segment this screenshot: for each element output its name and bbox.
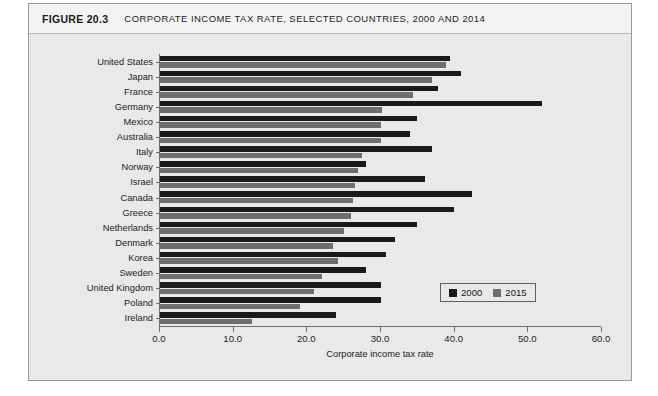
bar-2000 — [160, 297, 381, 303]
legend-swatch-2015 — [493, 289, 501, 297]
category-label: Italy — [136, 147, 153, 157]
bar-2015 — [160, 319, 252, 325]
x-tick-label: 20.0 — [297, 333, 316, 344]
bar-2000 — [160, 312, 336, 318]
bar-2015 — [160, 183, 355, 189]
category-label: Ireland — [125, 313, 153, 323]
bar-2015 — [160, 77, 432, 83]
bar-2000 — [160, 191, 472, 197]
bar-2015 — [160, 228, 344, 234]
x-tick-label: 40.0 — [444, 333, 463, 344]
category-label: Australia — [117, 132, 153, 142]
bar-row: Germany — [160, 99, 601, 114]
bar-2000 — [160, 116, 417, 122]
category-label: Israel — [130, 177, 153, 187]
bar-2015 — [160, 289, 314, 295]
bar-2015 — [160, 62, 446, 68]
figure-number: FIGURE 20.3 — [42, 13, 108, 25]
category-label: Poland — [124, 298, 153, 308]
bar-2015 — [160, 304, 300, 310]
x-tick-mark — [233, 327, 234, 332]
category-label: United Kingdom — [87, 283, 153, 293]
x-tick-mark — [527, 327, 528, 332]
bar-row: Sweden — [160, 266, 601, 281]
bar-row: Netherlands — [160, 220, 601, 235]
bar-row: Denmark — [160, 235, 601, 250]
category-label: United States — [97, 57, 153, 67]
bar-2015 — [160, 258, 338, 264]
x-tick-label: 50.0 — [518, 333, 537, 344]
category-label: Norway — [121, 162, 153, 172]
bar-2015 — [160, 153, 362, 159]
legend-item-2000: 2000 — [449, 287, 482, 298]
bar-row: Israel — [160, 175, 601, 190]
bar-2015 — [160, 198, 353, 204]
bar-2015 — [160, 107, 382, 113]
bar-row: France — [160, 84, 601, 99]
x-tick-mark — [306, 327, 307, 332]
bar-2000 — [160, 161, 366, 167]
category-label: Korea — [128, 253, 153, 263]
bar-row: Korea — [160, 250, 601, 265]
legend-label-2000: 2000 — [461, 287, 482, 298]
bar-2000 — [160, 176, 425, 182]
bar-2015 — [160, 274, 322, 280]
bar-row: Mexico — [160, 114, 601, 129]
bar-2015 — [160, 138, 381, 144]
x-tick-label: 30.0 — [371, 333, 390, 344]
bar-row: Ireland — [160, 311, 601, 326]
bar-row: Greece — [160, 205, 601, 220]
legend-item-2015: 2015 — [493, 287, 526, 298]
bar-2000 — [160, 131, 410, 137]
x-tick-label: 0.0 — [152, 333, 165, 344]
bar-2000 — [160, 207, 454, 213]
bar-row: Norway — [160, 160, 601, 175]
category-label: Mexico — [124, 117, 153, 127]
category-label: France — [124, 87, 153, 97]
bar-row: Japan — [160, 69, 601, 84]
category-label: Germany — [115, 102, 153, 112]
legend-swatch-2000 — [449, 289, 457, 297]
figure-header: FIGURE 20.3 CORPORATE INCOME TAX RATE, S… — [29, 4, 631, 34]
bar-2000 — [160, 146, 432, 152]
bar-2000 — [160, 282, 381, 288]
category-label: Denmark — [115, 238, 153, 248]
bar-row: Australia — [160, 130, 601, 145]
bar-row: United States — [160, 54, 601, 69]
category-label: Netherlands — [103, 223, 153, 233]
bar-2000 — [160, 237, 395, 243]
category-label: Japan — [128, 72, 153, 82]
bar-2000 — [160, 56, 450, 62]
category-label: Canada — [120, 193, 153, 203]
chart-plot-panel: United StatesJapanFranceGermanyMexicoAus… — [41, 46, 619, 368]
bar-row: Canada — [160, 190, 601, 205]
bar-2000 — [160, 222, 417, 228]
bar-2000 — [160, 71, 461, 77]
bar-2000 — [160, 252, 386, 258]
bar-2015 — [160, 92, 413, 98]
bar-2015 — [160, 168, 358, 174]
bar-2015 — [160, 213, 351, 219]
figure-card: FIGURE 20.3 CORPORATE INCOME TAX RATE, S… — [28, 3, 632, 381]
bar-row: Italy — [160, 145, 601, 160]
category-label: Greece — [123, 208, 154, 218]
category-label: Sweden — [119, 268, 153, 278]
x-tick-mark — [380, 327, 381, 332]
x-tick-label: 10.0 — [223, 333, 242, 344]
figure-title: CORPORATE INCOME TAX RATE, SELECTED COUN… — [124, 13, 485, 24]
bar-2015 — [160, 243, 333, 249]
x-tick-mark — [601, 327, 602, 332]
x-axis-title: Corporate income tax rate — [159, 349, 601, 359]
chart-legend: 2000 2015 — [440, 283, 536, 302]
bar-2000 — [160, 86, 438, 92]
legend-label-2015: 2015 — [505, 287, 526, 298]
bar-2000 — [160, 101, 542, 107]
x-tick-mark — [159, 327, 160, 332]
x-tick-label: 60.0 — [592, 333, 611, 344]
bar-2015 — [160, 122, 381, 128]
x-tick-mark — [454, 327, 455, 332]
bar-2000 — [160, 267, 366, 273]
x-axis-ticks: 0.010.020.030.040.050.060.0 — [159, 327, 601, 349]
